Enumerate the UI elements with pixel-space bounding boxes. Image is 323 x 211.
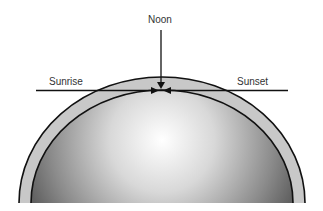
diagram-canvas [0, 0, 323, 211]
sunset-label: Sunset [237, 76, 268, 88]
atmospheric-refraction-diagram: Noon Sunrise Sunset [0, 0, 323, 211]
sunrise-label: Sunrise [49, 76, 83, 88]
noon-label: Noon [148, 14, 172, 26]
